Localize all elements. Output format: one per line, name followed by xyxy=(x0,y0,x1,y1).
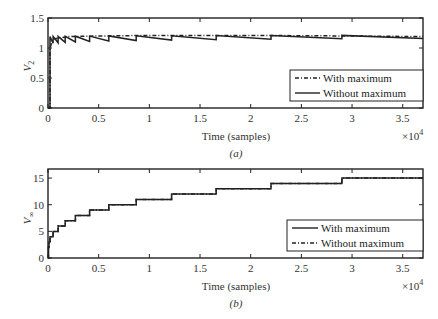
ticks-a: 00.511.522.533.500.511.5 xyxy=(30,12,423,124)
x-tick-label: 1.5 xyxy=(193,112,207,124)
caption-b: (b) xyxy=(230,297,243,310)
legend-a: With maximum Without maximum xyxy=(290,70,423,101)
figure: 00.511.522.533.500.511.5 V2 Time (sample… xyxy=(0,0,438,319)
x-tick-label: 2.5 xyxy=(295,262,309,274)
y-tick-label: 10 xyxy=(33,199,45,211)
y-axis-label-b: V∞ xyxy=(21,211,36,224)
y-tick-label: 0 xyxy=(39,252,45,264)
y-axis-label-a: V2 xyxy=(21,61,36,72)
y-tick-label: 1.5 xyxy=(30,12,44,24)
x-tick-label: 2 xyxy=(248,112,254,124)
y-tick-label: 5 xyxy=(39,225,45,237)
x-tick-label: 3 xyxy=(349,262,355,274)
x-tick-label: 2 xyxy=(248,262,254,274)
caption-a: (a) xyxy=(230,147,243,160)
x-tick-label: 1 xyxy=(147,112,153,124)
y-tick-label: 0 xyxy=(39,102,45,114)
x-tick-label: 0 xyxy=(45,112,51,124)
x-tick-label: 0 xyxy=(45,262,51,274)
x-tick-label: 1 xyxy=(147,262,153,274)
x-tick-label: 0.5 xyxy=(92,262,106,274)
x-multiplier-a: ×104 xyxy=(402,128,423,142)
y-tick-label: 1 xyxy=(39,42,45,54)
y-tick-label: 0.5 xyxy=(30,72,44,84)
x-tick-label: 3.5 xyxy=(396,262,410,274)
x-axis-label-a: Time (samples) xyxy=(202,130,271,143)
legend-label: Without maximum xyxy=(321,237,404,249)
x-tick-label: 3 xyxy=(349,112,355,124)
x-multiplier-b: ×104 xyxy=(402,278,423,292)
x-tick-label: 2.5 xyxy=(295,112,309,124)
x-axis-label-b: Time (samples) xyxy=(202,280,271,293)
legend-label: With maximum xyxy=(321,222,390,234)
x-tick-label: 1.5 xyxy=(193,262,207,274)
legend-b: With maximum Without maximum xyxy=(287,220,423,251)
y-tick-label: 15 xyxy=(33,172,45,184)
x-tick-label: 3.5 xyxy=(396,112,410,124)
legend-label: Without maximum xyxy=(323,87,406,99)
legend-label: With maximum xyxy=(323,72,392,84)
chart-panel-a: 00.511.522.533.500.511.5 V2 Time (sample… xyxy=(21,12,423,160)
x-tick-label: 0.5 xyxy=(92,112,106,124)
chart-panel-b: 00.511.522.533.5051015 V∞ Time (samples)… xyxy=(21,169,423,310)
